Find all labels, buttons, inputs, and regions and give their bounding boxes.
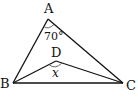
label-a: A	[43, 1, 54, 16]
segment-dc	[56, 61, 123, 83]
angle-arc-a	[44, 25, 54, 28]
label-c: C	[126, 78, 136, 93]
label-b: B	[0, 76, 10, 91]
label-d: D	[51, 45, 61, 60]
triangle-diagram: A B C D 70° x	[0, 0, 138, 97]
angle-label-x: x	[52, 66, 59, 80]
angle-label-a: 70°	[44, 30, 64, 43]
